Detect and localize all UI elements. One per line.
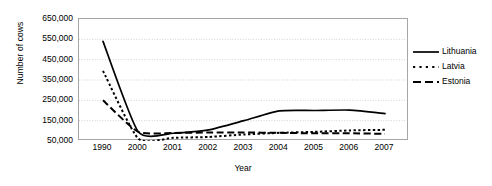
y-axis-title: Number of cows — [15, 3, 25, 103]
y-tick-label: 350,000 — [26, 75, 73, 84]
y-tick-label: 50,000 — [26, 136, 73, 145]
x-axis-title: Year — [78, 163, 408, 173]
series-line-lithuania — [103, 41, 385, 136]
legend-item-lithuania[interactable]: Lithuania — [413, 44, 492, 59]
y-tick-label: 250,000 — [26, 95, 73, 104]
y-tick-label: 450,000 — [26, 55, 73, 64]
chart-legend: LithuaniaLatviaEstonia — [413, 44, 492, 89]
legend-swatch-solid-icon — [413, 47, 439, 57]
legend-label: Latvia — [442, 62, 465, 71]
y-tick-label: 150,000 — [26, 116, 73, 125]
legend-swatch-dashed-icon — [413, 77, 439, 87]
legend-label: Lithuania — [442, 47, 477, 56]
series-line-estonia — [103, 100, 385, 134]
legend-swatch-dotted-icon — [413, 62, 439, 72]
x-axis-tick-labels: 199020002001200220032004200520062007 — [78, 143, 408, 157]
series-line-latvia — [103, 71, 385, 141]
legend-label: Estonia — [442, 77, 470, 86]
y-axis-tick-labels: 50,000150,000250,000350,000450,000550,00… — [26, 0, 73, 186]
x-tick-label: 2007 — [361, 143, 407, 152]
series-lines — [103, 41, 385, 141]
y-tick-label: 550,000 — [26, 34, 73, 43]
plot-area — [78, 18, 408, 140]
cows-line-chart: Number of cows 50,000150,000250,000350,0… — [0, 0, 492, 186]
legend-item-estonia[interactable]: Estonia — [413, 74, 492, 89]
legend-item-latvia[interactable]: Latvia — [413, 59, 492, 74]
y-tick-label: 650,000 — [26, 14, 73, 23]
plot-svg — [79, 19, 409, 141]
